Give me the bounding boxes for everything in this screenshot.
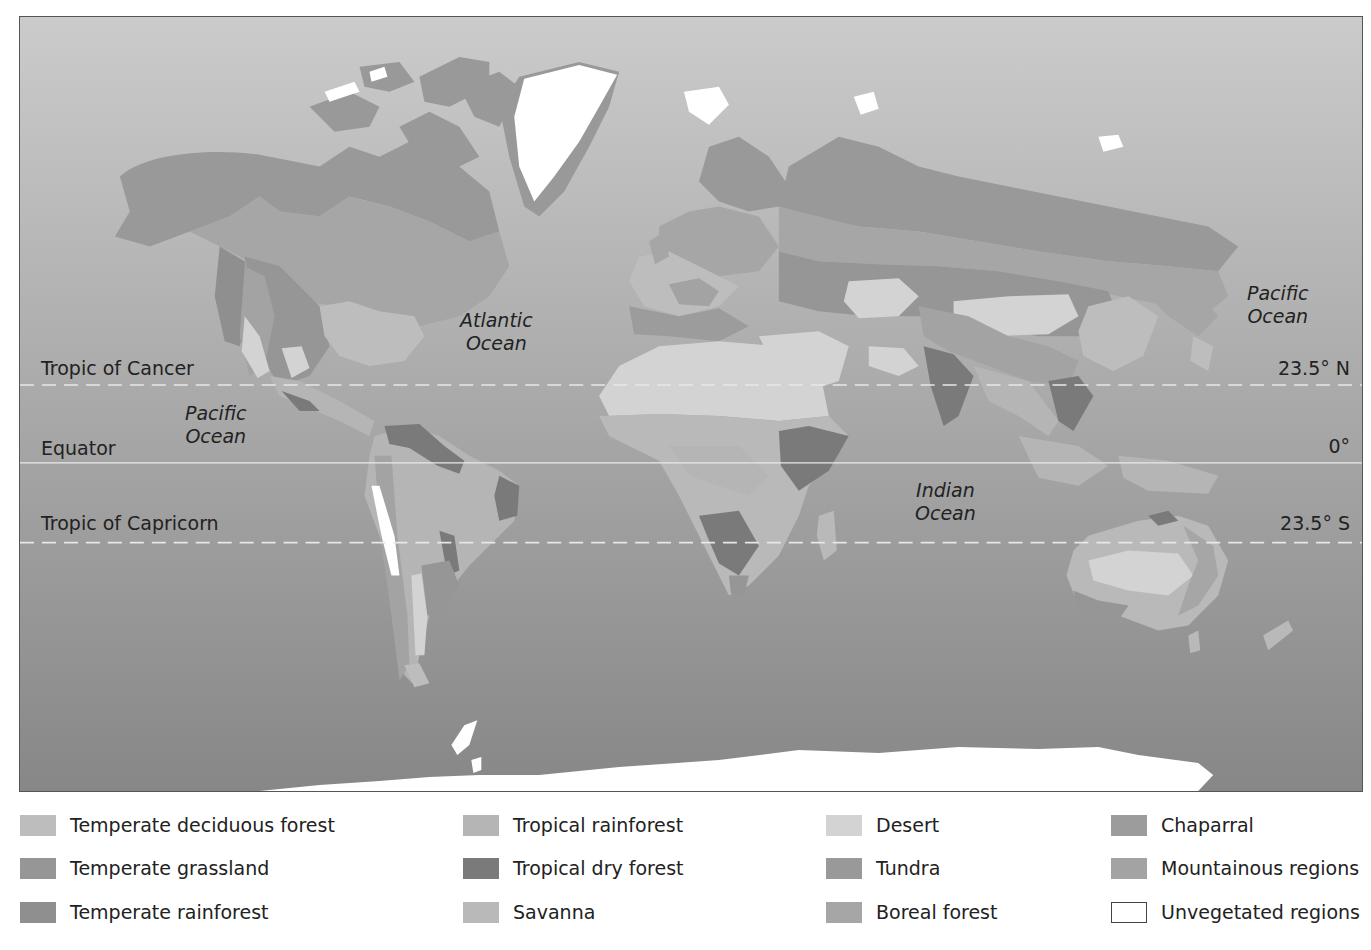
tropic-of-capricorn-label: Tropic of Capricorn (41, 512, 219, 534)
legend-item-tropical-dry-forest: Tropical dry forest (463, 855, 683, 881)
legend-label: Tropical rainforest (513, 814, 683, 836)
temperate-grassland-swatch (20, 858, 56, 879)
legend-label: Chaparral (1161, 814, 1254, 836)
legend-label: Tropical dry forest (513, 857, 683, 879)
tropic-of-capricorn-degrees: 23.5° S (1280, 512, 1350, 534)
temperate-deciduous-forest-swatch (20, 815, 56, 836)
tropic-of-cancer-label: Tropic of Cancer (41, 357, 194, 379)
atlantic-ocean-label: Atlantic Ocean (460, 309, 533, 355)
savanna-swatch (463, 902, 499, 923)
legend-item-savanna: Savanna (463, 899, 595, 925)
tropic-of-cancer-degrees: 23.5° N (1278, 357, 1350, 379)
legend-item-unvegetated-regions: Unvegetated regions (1111, 899, 1360, 925)
chaparral-swatch (1111, 815, 1147, 836)
legend-item-temperate-rainforest: Temperate rainforest (20, 899, 268, 925)
legend-label: Temperate rainforest (70, 901, 268, 923)
mountainous-regions-swatch (1111, 858, 1147, 879)
legend-item-mountainous-regions: Mountainous regions (1111, 855, 1359, 881)
tundra-swatch (826, 858, 862, 879)
equator-degrees: 0° (1328, 435, 1350, 457)
legend-item-desert: Desert (826, 812, 939, 838)
legend-label: Savanna (513, 901, 595, 923)
legend-label: Boreal forest (876, 901, 997, 923)
legend-label: Temperate deciduous forest (70, 814, 335, 836)
legend-item-tundra: Tundra (826, 855, 940, 881)
tropical-dry-forest-swatch (463, 858, 499, 879)
equator-label: Equator (41, 437, 116, 459)
legend-label: Unvegetated regions (1161, 901, 1360, 923)
pacific-ocean-west-label: Pacific Ocean (185, 402, 247, 448)
indian-ocean-label: Indian Ocean (915, 479, 976, 525)
pacific-ocean-east-label: Pacific Ocean (1247, 282, 1309, 328)
legend-label: Desert (876, 814, 939, 836)
legend-item-tropical-rainforest: Tropical rainforest (463, 812, 683, 838)
legend-label: Mountainous regions (1161, 857, 1359, 879)
tropical-rainforest-swatch (463, 815, 499, 836)
legend-item-temperate-grassland: Temperate grassland (20, 855, 269, 881)
legend-item-boreal-forest: Boreal forest (826, 899, 997, 925)
legend-label: Temperate grassland (70, 857, 269, 879)
biome-world-map: Tropic of Cancer Equator Tropic of Capri… (19, 16, 1363, 792)
boreal-forest-swatch (826, 902, 862, 923)
legend-item-chaparral: Chaparral (1111, 812, 1254, 838)
legend-label: Tundra (876, 857, 940, 879)
biome-legend: Temperate deciduous forest Temperate gra… (0, 800, 1371, 950)
desert-swatch (826, 815, 862, 836)
temperate-rainforest-swatch (20, 902, 56, 923)
legend-item-temperate-deciduous-forest: Temperate deciduous forest (20, 812, 335, 838)
unvegetated-regions-swatch (1111, 902, 1147, 923)
